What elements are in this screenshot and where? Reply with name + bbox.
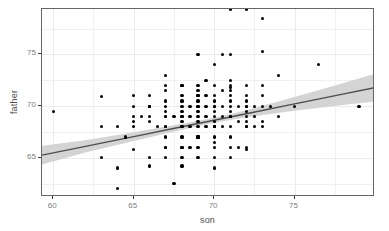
scatter-plot-figure: father son 657075 60657075 [0, 0, 389, 231]
data-point [196, 99, 199, 102]
data-point [132, 94, 135, 97]
data-point [261, 125, 264, 128]
data-point [261, 17, 264, 20]
data-point [196, 135, 199, 138]
data-point [132, 105, 135, 108]
data-point [180, 99, 183, 102]
data-point [261, 105, 264, 108]
data-point [148, 105, 151, 108]
data-point [164, 74, 167, 77]
data-point [245, 110, 248, 113]
data-point [116, 125, 119, 128]
data-point [180, 120, 183, 123]
data-point [204, 94, 207, 97]
data-point [213, 135, 216, 138]
data-point [277, 115, 280, 118]
data-point [188, 125, 191, 128]
data-point [148, 94, 151, 97]
x-tick-label: 60 [40, 201, 64, 210]
data-point [213, 105, 216, 108]
data-point [140, 115, 143, 118]
x-tick-label: 65 [121, 201, 145, 210]
data-point [213, 99, 216, 102]
data-point [245, 115, 248, 118]
data-point [245, 99, 248, 102]
data-point [213, 110, 216, 113]
data-point [221, 125, 224, 128]
data-point [253, 115, 256, 118]
data-point [245, 105, 248, 108]
y-tick-label: 65 [18, 152, 36, 161]
data-point [253, 105, 256, 108]
data-point [317, 63, 320, 66]
data-point [237, 146, 240, 149]
data-point [196, 120, 199, 123]
data-point [172, 182, 175, 185]
data-point [277, 74, 280, 77]
data-point [213, 156, 216, 159]
data-point [100, 95, 103, 98]
data-point [229, 94, 232, 97]
data-point [293, 105, 296, 108]
data-point [196, 125, 199, 128]
data-point [204, 125, 207, 128]
data-point [213, 84, 216, 87]
y-tick-label: 75 [18, 48, 36, 57]
data-point [245, 148, 248, 151]
data-point [164, 110, 167, 113]
data-point [213, 146, 216, 149]
data-point [148, 156, 151, 159]
data-point [164, 105, 167, 108]
data-point [196, 84, 199, 87]
data-point [188, 146, 191, 149]
data-point [261, 120, 264, 123]
data-point [116, 187, 119, 190]
data-point [229, 115, 232, 118]
data-point [229, 156, 232, 159]
data-point [188, 115, 191, 118]
data-point [196, 89, 199, 92]
data-point [188, 105, 191, 108]
data-point [204, 115, 207, 118]
data-point [180, 110, 183, 113]
data-point [148, 164, 151, 167]
data-point [204, 105, 207, 108]
data-point [221, 115, 224, 118]
data-point [180, 125, 183, 128]
data-point [132, 115, 135, 118]
data-point [213, 120, 216, 123]
plot-panel [41, 8, 374, 196]
data-point [180, 135, 183, 138]
data-point [229, 79, 232, 82]
data-point [196, 53, 199, 56]
data-point [100, 125, 103, 128]
data-point [245, 120, 248, 123]
data-point [237, 105, 240, 108]
data-point [213, 115, 216, 118]
data-point [221, 53, 224, 56]
data-point [253, 125, 256, 128]
data-point [221, 105, 224, 108]
data-point [164, 146, 167, 149]
data-point [196, 156, 199, 159]
x-tick-mark [294, 196, 295, 199]
data-point [229, 110, 232, 113]
data-point [132, 125, 135, 128]
data-point [196, 115, 199, 118]
data-point [229, 89, 232, 92]
data-point [245, 94, 248, 97]
data-point [229, 8, 232, 11]
data-point [196, 105, 199, 108]
data-point [196, 146, 199, 149]
data-point [132, 120, 135, 123]
data-point [237, 120, 240, 123]
data-points [42, 9, 374, 196]
data-point [196, 110, 199, 113]
data-point [245, 84, 248, 87]
data-point [229, 135, 232, 138]
data-point [180, 164, 183, 167]
x-tick-mark [213, 196, 214, 199]
data-point [180, 156, 183, 159]
data-point [164, 89, 167, 92]
x-tick-label: 75 [282, 201, 306, 210]
